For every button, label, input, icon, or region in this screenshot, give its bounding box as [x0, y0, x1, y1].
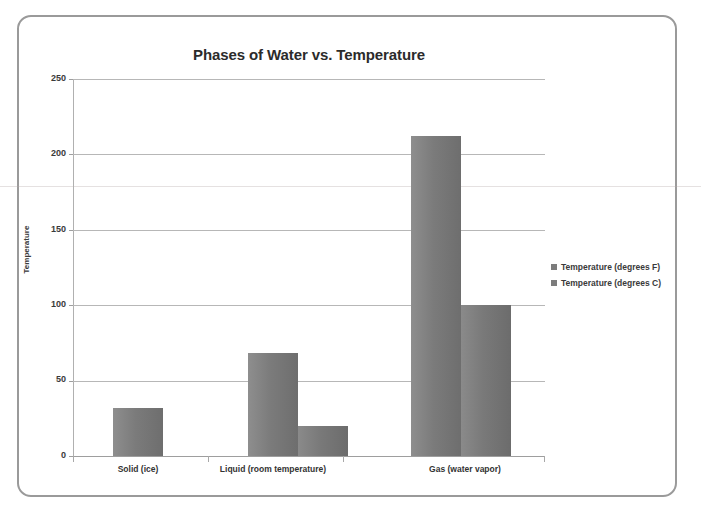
chart-title: Phases of Water vs. Temperature	[73, 46, 545, 63]
bar-liquid-celsius[interactable]	[298, 426, 348, 456]
y-tick-label-250: 250	[20, 73, 66, 83]
legend-label-celsius: Temperature (degrees C)	[561, 278, 661, 288]
x-axis-tick-1	[208, 456, 209, 462]
x-axis-label-liquid: Liquid (room temperature)	[198, 464, 348, 474]
y-tick-label-150: 150	[20, 224, 66, 234]
x-axis-label-gas: Gas (water vapor)	[400, 464, 530, 474]
x-axis-tick-2	[343, 456, 344, 462]
bar-solid-ice-fahrenheit[interactable]	[113, 408, 163, 456]
plot-area	[73, 79, 545, 456]
bar-gas-celsius[interactable]	[461, 305, 511, 456]
legend-square-marker-icon	[551, 280, 557, 286]
bar-gas-fahrenheit[interactable]	[411, 136, 461, 456]
x-axis-tick-end	[544, 456, 545, 462]
legend-label-fahrenheit: Temperature (degrees F)	[561, 262, 660, 272]
gridline-250	[73, 79, 545, 80]
chart-legend: Temperature (degrees F) Temperature (deg…	[551, 262, 681, 294]
y-tick-label-50: 50	[20, 374, 66, 384]
y-tick-label-0: 0	[20, 450, 66, 460]
x-axis-label-solid: Solid (ice)	[78, 464, 198, 474]
legend-item-celsius[interactable]: Temperature (degrees C)	[551, 278, 681, 288]
bar-liquid-fahrenheit[interactable]	[248, 353, 298, 456]
y-tick-label-100: 100	[20, 299, 66, 309]
gridline-0	[73, 456, 545, 457]
legend-item-fahrenheit[interactable]: Temperature (degrees F)	[551, 262, 681, 272]
gridline-150	[73, 230, 545, 231]
legend-square-marker-icon	[551, 264, 557, 270]
gridline-200	[73, 154, 545, 155]
y-tick-label-200: 200	[20, 148, 66, 158]
bar-chart: Phases of Water vs. Temperature Temperat…	[0, 0, 701, 521]
x-axis-tick-start	[73, 456, 74, 462]
